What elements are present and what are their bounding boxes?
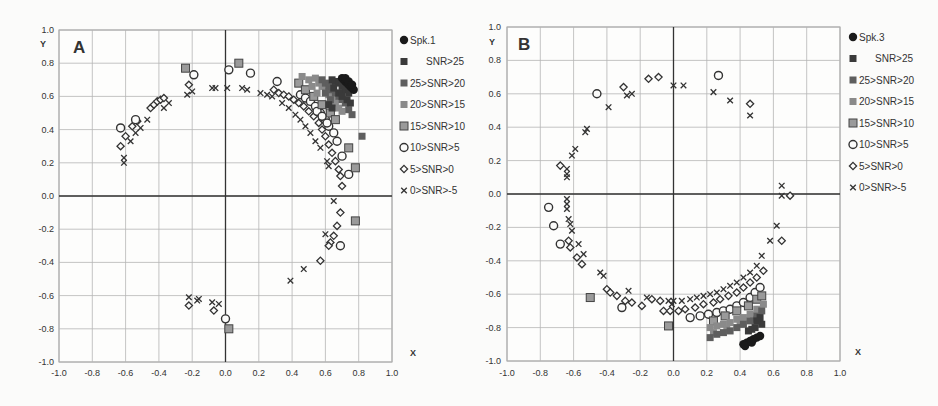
data-point: [347, 100, 354, 107]
data-point: [556, 240, 564, 248]
y-tick-label: 0.8: [488, 55, 501, 65]
y-tick-label: -0.8: [485, 323, 501, 333]
data-point: [336, 242, 344, 250]
data-point: [713, 322, 720, 329]
x-tick-label: -0.6: [566, 368, 582, 378]
data-point: [314, 90, 321, 97]
legend-label: 15>SNR>10: [410, 121, 465, 132]
data-point: [359, 133, 366, 140]
legend-item: 10>SNR>5: [400, 142, 460, 153]
data-point: [309, 83, 316, 90]
legend-item: 10>SNR>5: [849, 139, 909, 150]
y-tick-label: 0.2: [488, 156, 501, 166]
x-tick-label: -1.0: [499, 368, 515, 378]
y-tick-label: -0.6: [38, 291, 54, 301]
data-point: [339, 93, 346, 100]
legend-marker-icon: [850, 77, 857, 84]
data-point: [747, 317, 754, 324]
legend-marker-icon: [849, 119, 857, 127]
data-point: [752, 324, 759, 331]
data-point: [330, 85, 337, 92]
legend-label: SNR>25: [426, 56, 465, 67]
x-tick-label: 0.6: [319, 368, 332, 378]
legend-item: 15>SNR>10: [400, 121, 465, 132]
legend-label: 10>SNR>5: [859, 139, 909, 150]
legend-item: SNR>25: [850, 53, 914, 64]
data-point: [299, 73, 306, 80]
panel-label: B: [518, 35, 530, 54]
legend-marker-icon: [401, 101, 408, 108]
legend-label: 5>SNR>0: [410, 164, 454, 175]
legend-label: Spk.3: [859, 32, 885, 43]
y-tick-label: -1.0: [485, 356, 501, 366]
data-point: [345, 144, 353, 152]
x-tick-label: 0.8: [352, 368, 365, 378]
data-point: [331, 116, 339, 124]
y-tick-label: 0.6: [41, 91, 54, 101]
x-tick-label: -0.2: [184, 368, 200, 378]
data-point: [550, 222, 558, 230]
legend-item: 20>SNR>15: [850, 96, 915, 107]
scatter-panel-b: -1.0-0.8-0.6-0.4-0.20.00.20.40.60.81.01.…: [469, 0, 938, 406]
y-tick-label: -0.4: [485, 256, 501, 266]
panel-label: A: [73, 38, 85, 57]
x-tick-label: -0.2: [632, 368, 648, 378]
y-tick-label: 0.8: [41, 58, 54, 68]
data-point: [760, 301, 767, 308]
legend-item: 15>SNR>10: [849, 118, 914, 129]
x-tick-label: -0.6: [118, 368, 134, 378]
data-point: [727, 319, 734, 326]
data-point: [756, 284, 764, 292]
data-point: [593, 90, 601, 98]
y-tick-label: -0.8: [38, 324, 54, 334]
x-tick-label: 1.0: [386, 368, 399, 378]
x-axis-title: X: [410, 348, 416, 358]
legend-marker-icon: [401, 58, 408, 65]
legend-marker-icon: [850, 185, 856, 191]
data-point: [733, 307, 741, 315]
legend-label: 20>SNR>15: [410, 99, 465, 110]
legend-item: 25>SNR>20: [850, 75, 915, 86]
legend-item: Spk.3: [849, 32, 885, 43]
scatter-panel-a: -1.0-0.8-0.6-0.4-0.20.00.20.40.60.81.01.…: [0, 0, 469, 406]
data-point: [117, 124, 125, 132]
legend-label: 15>SNR>10: [859, 118, 914, 129]
legend-label: 25>SNR>20: [410, 78, 465, 89]
data-point: [305, 76, 312, 83]
legend-item: SNR>25: [401, 56, 465, 67]
data-point: [713, 331, 720, 338]
data-point: [225, 66, 233, 74]
y-tick-label: -0.2: [485, 222, 501, 232]
legend-label: 0>SNR>-5: [859, 182, 907, 193]
y-tick-label: 0.4: [41, 125, 54, 135]
legend-label: 5>SNR>0: [859, 161, 903, 172]
legend: Spk.1SNR>2525>SNR>2020>SNR>1515>SNR>1010…: [400, 35, 466, 197]
legend-item: 0>SNR>-5: [850, 182, 906, 193]
x-tick-label: -1.0: [51, 368, 67, 378]
legend-marker-icon: [849, 141, 857, 149]
data-point: [696, 312, 704, 320]
legend-item: 25>SNR>20: [401, 78, 466, 89]
legend: Spk.3SNR>2525>SNR>2020>SNR>1515>SNR>1010…: [849, 32, 915, 194]
legend-marker-icon: [400, 122, 408, 130]
y-tick-label: 0.0: [488, 189, 501, 199]
x-tick-label: 0.8: [800, 368, 813, 378]
data-point: [744, 302, 752, 310]
data-point: [665, 322, 673, 330]
data-point: [758, 292, 766, 300]
y-tick-label: -0.6: [485, 289, 501, 299]
data-point: [720, 329, 727, 336]
data-point: [322, 90, 329, 97]
y-tick-label: 0.4: [488, 122, 501, 132]
legend-marker-icon: [400, 165, 407, 172]
data-point: [190, 71, 198, 79]
y-tick-label: 1.0: [488, 22, 501, 32]
legend-marker-icon: [400, 144, 408, 152]
data-point: [740, 314, 747, 321]
data-point: [740, 321, 747, 328]
scatter-chart-b: -1.0-0.8-0.6-0.4-0.20.00.20.40.60.81.01.…: [469, 0, 938, 406]
legend-marker-icon: [400, 36, 408, 44]
data-point: [333, 137, 341, 145]
y-axis-title: Y: [40, 39, 46, 49]
legend-item: 5>SNR>0: [400, 164, 454, 175]
